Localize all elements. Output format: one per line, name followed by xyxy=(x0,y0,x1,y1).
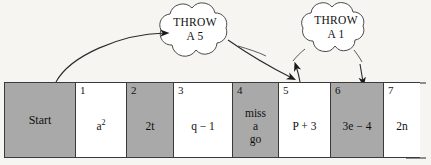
cloud-b-tail-right xyxy=(354,50,362,62)
arrow-5-to-cloud xyxy=(296,66,300,82)
arrow-start-to-5-left-half xyxy=(56,33,165,82)
board-game-diagram: Start 1 a2 2 2t 3 q − 1 4 miss a go 5 P … xyxy=(0,0,431,165)
cell-number-7: 7 xyxy=(388,84,394,96)
cell-label-7: 2n xyxy=(396,108,408,133)
cell-label-6: 3e − 4 xyxy=(343,108,372,133)
board-cell-1[interactable]: 1 a2 xyxy=(75,82,127,158)
cell-number-2: 2 xyxy=(131,84,137,96)
arrow-cloud-to-6 xyxy=(360,64,363,82)
board-cell-6[interactable]: 6 3e − 4 xyxy=(330,82,384,158)
cell-label-start: Start xyxy=(29,114,52,127)
board-cell-7[interactable]: 7 2n xyxy=(383,82,420,158)
board-cell-3[interactable]: 3 q − 1 xyxy=(173,82,233,158)
board-track: Start 1 a2 2 2t 3 q − 1 4 miss a go 5 P … xyxy=(4,82,420,158)
board-cell-start[interactable]: Start xyxy=(4,82,76,158)
cell-number-1: 1 xyxy=(80,84,86,96)
cell-label-4: miss a go xyxy=(245,95,266,146)
cloud-label-throw-a-1: THROW A 1 xyxy=(303,14,369,41)
cloud-b-tail-left xyxy=(293,49,305,61)
arrow-start-to-5-right-half xyxy=(228,40,292,78)
cell-number-5: 5 xyxy=(283,84,289,96)
cloud-label-throw-a-5: THROW A 5 xyxy=(160,16,230,43)
cell-number-6: 6 xyxy=(335,84,341,96)
board-cell-4[interactable]: 4 miss a go xyxy=(232,82,279,158)
cell-1-exponent: 2 xyxy=(102,118,106,127)
cell-label-2: 2t xyxy=(146,108,155,133)
cell-label-5: P + 3 xyxy=(293,108,317,133)
board-cell-2[interactable]: 2 2t xyxy=(126,82,174,158)
cell-label-1: a2 xyxy=(96,108,105,133)
cell-number-3: 3 xyxy=(178,84,184,96)
board-cell-5[interactable]: 5 P + 3 xyxy=(278,82,331,158)
cell-label-3: q − 1 xyxy=(191,108,215,133)
cloud-a-tail xyxy=(238,46,266,56)
cell-number-4: 4 xyxy=(237,84,243,96)
